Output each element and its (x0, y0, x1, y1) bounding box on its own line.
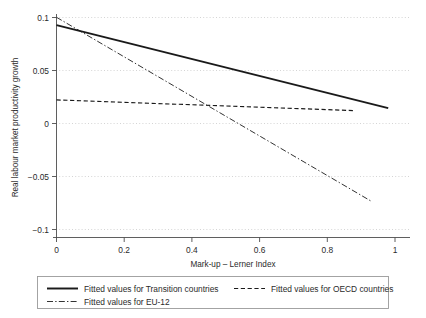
x-tick-label-4: 0.8 (321, 245, 333, 255)
y-tick-label-0: 0.1 (37, 13, 49, 23)
chart-svg: 0.1 0.05 0 −0.05 −0.1 0 0.2 0.4 0.6 0.8 … (0, 0, 426, 318)
y-tick-label-2: 0 (44, 119, 49, 129)
x-tick-label-2: 0.4 (186, 245, 198, 255)
chart-figure: 0.1 0.05 0 −0.05 −0.1 0 0.2 0.4 0.6 0.8 … (0, 0, 426, 318)
legend-label-transition-countries: Fitted values for Transition countries (84, 284, 219, 294)
y-tick-label-4: −0.1 (32, 225, 49, 235)
x-tick-label-5: 1 (393, 245, 398, 255)
chart-legend: Fitted values for Transition countries F… (38, 277, 394, 309)
x-axis-title: Mark-up – Lerner Index (190, 260, 275, 269)
y-axis-title: Real labour market productivity growth (11, 57, 20, 197)
figure-background (0, 0, 426, 318)
x-tick-label-3: 0.6 (254, 245, 266, 255)
y-tick-label-1: 0.05 (33, 66, 50, 76)
x-tick-label-0: 0 (54, 245, 59, 255)
legend-label-oecd-countries: Fitted values for OECD countries (271, 284, 393, 294)
legend-label-eu-12: Fitted values for EU-12 (84, 297, 170, 307)
y-tick-label-3: −0.05 (28, 172, 50, 182)
x-tick-label-1: 0.2 (118, 245, 130, 255)
